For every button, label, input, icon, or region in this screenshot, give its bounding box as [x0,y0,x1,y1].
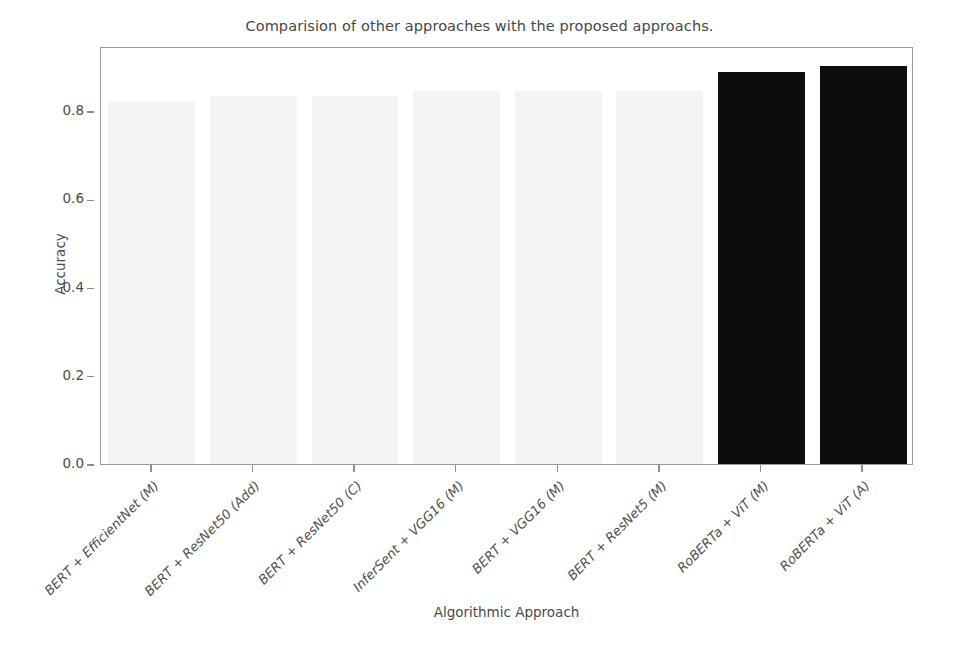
bar [718,72,805,464]
y-axis-tick-mark [87,288,94,289]
chart-title: Comparision of other approaches with the… [0,18,959,34]
plot-area [100,47,913,465]
x-axis-label: Algorithmic Approach [100,604,913,620]
bar [210,96,297,464]
x-axis-tick-mark [150,465,151,472]
x-axis-tick-mark [353,465,354,472]
x-axis-tick-mark [658,465,659,472]
bar [616,91,703,464]
y-axis-label: Accuracy [52,184,68,344]
bar [413,91,500,464]
bar [312,96,399,464]
y-axis-tick-mark [87,376,94,377]
bars-layer [101,48,912,464]
y-axis-tick-mark [87,464,94,465]
bar-chart-figure: Comparision of other approaches with the… [0,0,959,655]
y-axis-tick-mark [87,111,94,112]
x-axis-tick-mark [252,465,253,472]
y-axis-tick-label: 0.8 [63,102,84,118]
x-axis-tick-mark [861,465,862,472]
bar [108,102,195,464]
x-axis-tick-mark [760,465,761,472]
y-axis-tick-label: 0.2 [63,367,84,383]
x-axis-tick-label: BERT + EfficientNet (M) [0,478,161,655]
bar [820,66,907,464]
x-axis-tick-mark [455,465,456,472]
y-axis-tick-label: 0.0 [63,455,84,471]
y-axis-tick-mark [87,200,94,201]
bar [515,91,602,464]
x-axis-tick-mark [557,465,558,472]
